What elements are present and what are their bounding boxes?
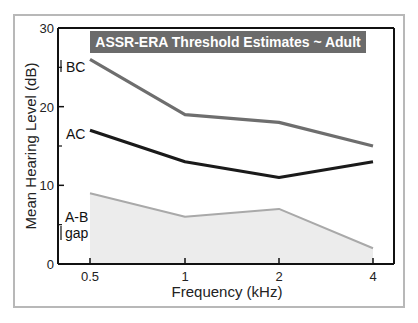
y-tick-label: 10 xyxy=(40,178,54,193)
x-tick-label: 0.5 xyxy=(81,269,99,284)
x-tick-label: 4 xyxy=(369,269,376,284)
x-tick-label: 1 xyxy=(181,269,188,284)
y-ticks: 0102030 xyxy=(40,21,64,272)
line-bc xyxy=(90,59,373,146)
label-bc: BC xyxy=(66,59,85,75)
chart-title: ASSR-ERA Threshold Estimates ~ Adult xyxy=(95,34,361,50)
y-tick-label: 20 xyxy=(40,100,54,115)
y-tick-label: 0 xyxy=(47,257,54,272)
chart: ASSR-ERA Threshold Estimates ~ Adult 010… xyxy=(0,0,418,323)
label-ac: AC xyxy=(66,126,85,142)
y-tick-label: 30 xyxy=(40,21,54,36)
line-ac xyxy=(90,130,373,177)
label-gap-line1: A-B xyxy=(65,209,88,225)
y-axis-label: Mean Hearing Level (dB) xyxy=(22,63,39,230)
label-gap-line2: gap xyxy=(65,225,89,241)
x-tick-label: 2 xyxy=(275,269,282,284)
x-axis-label: Frequency (kHz) xyxy=(172,283,283,300)
